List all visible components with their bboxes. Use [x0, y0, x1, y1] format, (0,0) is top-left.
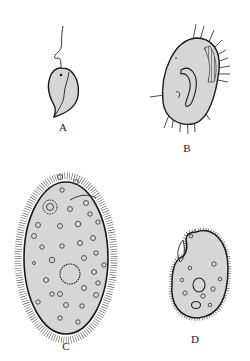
- label-d: D: [191, 333, 199, 345]
- label-c: C: [62, 340, 69, 352]
- label-b: B: [183, 142, 190, 154]
- organism-d: [172, 231, 228, 318]
- protozoa-illustration: [0, 0, 250, 361]
- organism-a: [49, 26, 79, 117]
- organism-c: [18, 175, 114, 341]
- organism-b: [150, 24, 230, 134]
- label-a: A: [59, 121, 67, 133]
